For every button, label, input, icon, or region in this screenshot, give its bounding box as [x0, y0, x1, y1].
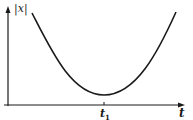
y-axis-label: |x|	[14, 2, 28, 15]
x-axis-label-text: t	[179, 106, 185, 120]
x-tick-subscript: 1	[105, 113, 110, 120]
curve	[32, 12, 176, 95]
y-axis-arrow-icon	[6, 6, 11, 13]
x-axis-label: t	[179, 106, 185, 120]
x-tick-label-t1: t1	[100, 107, 110, 120]
plot-canvas	[0, 0, 193, 120]
y-axis-label-text: |x|	[14, 2, 28, 15]
